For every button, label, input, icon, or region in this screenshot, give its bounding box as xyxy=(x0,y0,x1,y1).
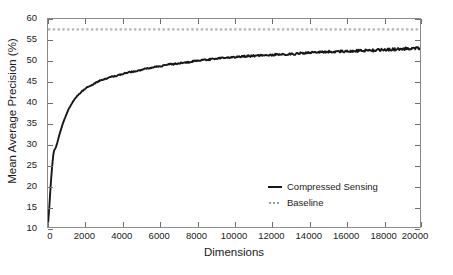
x-axis-tick-mark xyxy=(347,19,348,24)
x-axis-tick-mark xyxy=(235,222,236,227)
x-axis-tick-mark xyxy=(85,19,86,24)
x-axis-tick-mark xyxy=(85,222,86,227)
y-axis-tick-label: 10 xyxy=(26,223,37,233)
x-axis-tick-mark xyxy=(198,222,199,227)
legend-item-baseline: Baseline xyxy=(268,196,418,209)
y-axis-tick-mark xyxy=(415,19,420,20)
y-axis-tick-mark xyxy=(415,124,420,125)
x-axis-tick-label: 12000 xyxy=(258,231,284,241)
legend-item-compressed-sensing: Compressed Sensing xyxy=(268,180,418,193)
x-axis-tick-labels: 0200040006000800010000120001400016000180… xyxy=(47,231,421,247)
x-axis-tick-label: 0 xyxy=(47,231,52,241)
y-axis-tick-label: 45 xyxy=(26,76,37,86)
y-axis-tick-mark xyxy=(415,103,420,104)
y-axis-tick-label: 25 xyxy=(26,160,37,170)
x-axis-tick-mark xyxy=(310,222,311,227)
legend-label: Compressed Sensing xyxy=(287,182,378,192)
y-axis-tick-mark xyxy=(415,166,420,167)
x-axis-tick-mark xyxy=(123,222,124,227)
y-axis-tick-mark xyxy=(48,187,53,188)
y-axis-tick-label: 60 xyxy=(26,13,37,23)
x-axis-tick-mark xyxy=(160,19,161,24)
x-axis-tick-label: 2000 xyxy=(74,231,95,241)
x-axis-tick-mark xyxy=(421,19,422,24)
x-axis-tick-mark xyxy=(272,222,273,227)
chart-figure: 1015202530354045505560 Mean Average Prec… xyxy=(0,0,453,275)
y-axis-tick-mark xyxy=(415,40,420,41)
x-axis-tick-mark xyxy=(160,222,161,227)
x-axis-tick-mark xyxy=(48,19,49,24)
x-axis-tick-label: 20000 xyxy=(402,231,428,241)
x-axis-tick-mark xyxy=(421,222,422,227)
x-axis-tick-label: 10000 xyxy=(221,231,247,241)
x-axis-tick-label: 8000 xyxy=(186,231,207,241)
y-axis-tick-mark xyxy=(48,61,53,62)
y-axis-tick-mark xyxy=(48,40,53,41)
x-axis-tick-mark xyxy=(310,19,311,24)
y-axis-tick-mark xyxy=(48,103,53,104)
y-axis-tick-mark xyxy=(48,124,53,125)
y-axis-tick-mark xyxy=(48,166,53,167)
legend-label: Baseline xyxy=(287,198,323,208)
x-axis-tick-label: 14000 xyxy=(296,231,322,241)
y-axis-tick-mark xyxy=(48,82,53,83)
x-axis-tick-mark xyxy=(198,19,199,24)
x-axis-tick-mark xyxy=(272,19,273,24)
y-axis-tick-label: 15 xyxy=(26,202,37,212)
x-axis-tick-label: 16000 xyxy=(333,231,359,241)
x-axis-tick-mark xyxy=(235,19,236,24)
y-axis-tick-mark xyxy=(415,145,420,146)
x-axis-tick-label: 4000 xyxy=(111,231,132,241)
dotted-line-icon xyxy=(268,198,282,208)
y-axis-title: Mean Average Precision (%) xyxy=(6,6,18,216)
x-axis-tick-mark xyxy=(385,19,386,24)
solid-line-icon xyxy=(268,182,282,192)
y-axis-tick-label: 30 xyxy=(26,139,37,149)
x-axis-title: Dimensions xyxy=(47,246,421,258)
y-axis-tick-label: 35 xyxy=(26,118,37,128)
chart-legend: Compressed Sensing Baseline xyxy=(268,180,418,212)
y-axis-tick-label: 20 xyxy=(26,181,37,191)
y-axis-tick-mark xyxy=(415,61,420,62)
y-axis-tick-label: 50 xyxy=(26,55,37,65)
x-axis-tick-label: 18000 xyxy=(370,231,396,241)
x-axis-tick-label: 6000 xyxy=(149,231,170,241)
y-axis-tick-label: 40 xyxy=(26,97,37,107)
x-axis-tick-mark xyxy=(48,222,49,227)
y-axis-tick-mark xyxy=(415,82,420,83)
y-axis-tick-mark xyxy=(48,145,53,146)
y-axis-tick-mark xyxy=(48,208,53,209)
y-axis-tick-label: 55 xyxy=(26,34,37,44)
x-axis-tick-mark xyxy=(347,222,348,227)
x-axis-tick-mark xyxy=(123,19,124,24)
x-axis-tick-mark xyxy=(385,222,386,227)
